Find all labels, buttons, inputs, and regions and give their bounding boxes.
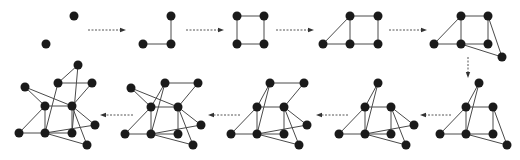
dashed-arrow-right-icon — [186, 28, 224, 32]
graph-g3 — [233, 12, 269, 49]
graph-edge — [365, 134, 406, 145]
graph-node — [260, 40, 269, 49]
graph-node — [402, 141, 411, 150]
graph-node — [194, 79, 203, 88]
graph-node — [484, 40, 493, 49]
graph-edge — [440, 107, 466, 134]
graph-edge — [323, 16, 350, 44]
graph-node — [91, 121, 100, 130]
graph-edge — [25, 87, 72, 106]
graph-node — [475, 79, 484, 88]
graph-node — [233, 12, 242, 21]
graph-node — [260, 12, 269, 21]
graph-node — [374, 40, 383, 49]
graph-edge — [19, 106, 45, 133]
graph-node — [319, 40, 328, 49]
graph-edge — [339, 107, 365, 134]
graph-edge — [257, 134, 299, 145]
graph-node — [68, 129, 77, 138]
graph-node — [189, 141, 198, 150]
graph-node — [266, 79, 275, 88]
graph-node — [253, 103, 262, 112]
dashed-arrow-right-icon — [88, 28, 126, 32]
graph-node — [295, 141, 304, 150]
graph-node — [489, 103, 498, 112]
graph-edge — [72, 65, 78, 133]
graph-node — [253, 130, 262, 139]
graph-node — [303, 121, 312, 130]
graph-node — [167, 12, 176, 21]
dashed-arrow-left-icon — [316, 113, 348, 117]
graph-edge — [493, 107, 507, 145]
graph-node — [346, 40, 355, 49]
graph-node — [121, 130, 130, 139]
dashed-arrow-left-icon — [420, 113, 451, 117]
graph-g5 — [430, 12, 507, 62]
dashed-arrow-left-icon — [208, 113, 240, 117]
graph-node — [457, 40, 466, 49]
graph-g9 — [121, 79, 206, 150]
graph-edge — [178, 83, 198, 107]
graph-node — [489, 130, 498, 139]
graph-node — [387, 103, 396, 112]
graph-edge — [466, 134, 507, 145]
graph-node — [147, 130, 156, 139]
graph-node — [15, 129, 24, 138]
dashed-arrow-left-icon — [100, 113, 133, 117]
graph-node — [83, 141, 92, 150]
graph-node — [346, 12, 355, 21]
graph-edge — [231, 107, 257, 134]
graph-node — [457, 12, 466, 21]
graph-g6 — [436, 79, 512, 150]
graph-node — [462, 103, 471, 112]
graph-node — [227, 130, 236, 139]
graph-edge — [488, 16, 502, 57]
graph-g10 — [15, 61, 100, 150]
graph-edge — [151, 134, 193, 145]
graph-node — [430, 40, 439, 49]
dashed-arrow-down-icon — [466, 57, 470, 78]
dashed-arrow-right-icon — [389, 28, 427, 32]
graph-node — [161, 79, 170, 88]
graph-edge — [284, 83, 304, 107]
graph-node — [374, 79, 383, 88]
graph-node — [41, 129, 50, 138]
graph-node — [233, 40, 242, 49]
graph-node — [280, 130, 289, 139]
graph-node — [21, 83, 30, 92]
graph-node — [70, 12, 79, 21]
graph-node — [41, 102, 50, 111]
graph-node — [436, 130, 445, 139]
graph-node — [174, 130, 183, 139]
graph-sequence-diagram — [0, 0, 520, 160]
graph-g8 — [227, 79, 312, 150]
graph-node — [410, 121, 419, 130]
graph-edge — [131, 88, 178, 107]
graph-node — [374, 12, 383, 21]
graph-node — [42, 40, 51, 49]
graph-edge — [434, 16, 461, 44]
graph-edge — [461, 44, 502, 57]
graph-node — [498, 53, 507, 62]
graph-edge — [125, 107, 151, 134]
graph-node — [139, 40, 148, 49]
graphs-layer — [15, 12, 512, 150]
graph-node — [74, 61, 83, 70]
graph-node — [335, 130, 344, 139]
graph-node — [300, 79, 309, 88]
graph-node — [361, 103, 370, 112]
graph-node — [503, 141, 512, 150]
graph-node — [88, 79, 97, 88]
graph-node — [462, 130, 471, 139]
graph-node — [387, 130, 396, 139]
graph-g1 — [42, 12, 79, 49]
graph-node — [68, 102, 77, 111]
graph-node — [361, 130, 370, 139]
graph-g4 — [319, 12, 383, 49]
graph-node — [484, 12, 493, 21]
graph-node — [197, 121, 206, 130]
graph-g2 — [139, 12, 176, 49]
graph-node — [167, 40, 176, 49]
dashed-arrow-right-icon — [276, 28, 314, 32]
diagram-svg — [0, 0, 520, 160]
